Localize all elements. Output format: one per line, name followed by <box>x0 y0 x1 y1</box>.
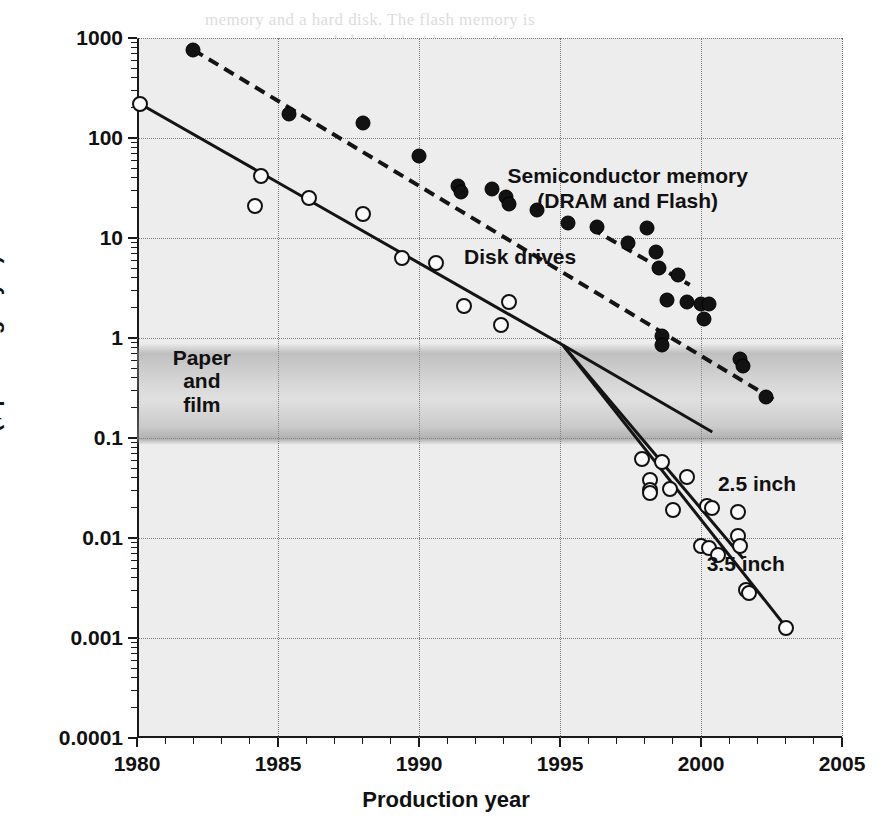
x-tick-2002 <box>757 738 758 744</box>
trendline-combined-disk-projection <box>563 345 712 432</box>
trendlines <box>137 38 842 738</box>
x-tick-label-1990: 1990 <box>396 752 443 776</box>
price-per-megabyte-chart: memory and a hard disk. The flash memory… <box>0 0 892 840</box>
gridline-y-0.001 <box>137 638 842 639</box>
x-tick-1994 <box>531 738 532 744</box>
data-point <box>758 389 773 404</box>
y-tick-label-0.001: 0.001 <box>70 626 123 650</box>
y-tick-40 <box>131 177 137 178</box>
x-tick-1980 <box>136 738 138 747</box>
data-point <box>642 485 658 501</box>
y-tick-0.0008 <box>131 647 137 648</box>
x-axis-title: Production year <box>362 787 529 813</box>
x-tick-1981 <box>165 738 166 744</box>
y-tick-label-100: 100 <box>88 126 123 150</box>
x-tick-1999 <box>672 738 673 744</box>
data-point <box>282 106 297 121</box>
x-tick-1985 <box>277 738 279 747</box>
x-tick-1992 <box>475 738 476 744</box>
annotation-line: 3.5 inch <box>707 552 785 576</box>
annotation-paper-and-film: Paperandfilm <box>173 346 231 417</box>
data-point <box>589 219 604 234</box>
y-tick-0.0005 <box>131 668 137 669</box>
data-point <box>736 359 751 374</box>
annotation-line: Disk drives <box>464 245 576 269</box>
data-point <box>186 42 201 57</box>
x-tick-2001 <box>729 738 730 744</box>
annotation-line: film <box>173 393 231 417</box>
y-tick-20 <box>131 207 137 208</box>
data-point <box>301 190 317 206</box>
y-tick-80 <box>131 147 137 148</box>
y-tick-800 <box>131 47 137 48</box>
trendline-2-5-inch <box>563 345 743 559</box>
y-tick-50 <box>131 168 137 169</box>
data-point <box>456 298 472 314</box>
data-point <box>454 184 469 199</box>
data-point <box>634 451 650 467</box>
y-tick-60 <box>131 160 137 161</box>
y-tick-label-1000: 1000 <box>76 26 123 50</box>
y-tick-0.001 <box>128 637 137 639</box>
y-tick-0.04 <box>131 477 137 478</box>
x-tick-1998 <box>644 738 645 744</box>
x-tick-1986 <box>306 738 307 744</box>
y-tick-7 <box>131 253 137 254</box>
data-point <box>253 168 269 184</box>
data-point <box>662 481 678 497</box>
y-tick-300 <box>131 90 137 91</box>
annotation-semiconductor: Semiconductor memory(DRAM and Flash) <box>507 164 747 213</box>
y-tick-700 <box>131 53 137 54</box>
y-tick-0.4 <box>131 377 137 378</box>
y-tick-90 <box>131 142 137 143</box>
gridline-y-10 <box>137 238 842 239</box>
data-point <box>132 96 148 112</box>
data-point <box>485 181 500 196</box>
data-point <box>671 267 686 282</box>
y-tick-1 <box>128 337 137 339</box>
y-tick-label-0.01: 0.01 <box>82 526 123 550</box>
data-point <box>648 245 663 260</box>
gridline-y-0.1 <box>137 438 842 439</box>
x-tick-1982 <box>193 738 194 744</box>
data-point <box>493 317 509 333</box>
y-tick-0.05 <box>131 468 137 469</box>
data-point <box>679 469 695 485</box>
data-point <box>665 502 681 518</box>
x-tick-2005 <box>841 738 843 747</box>
data-point <box>412 149 427 164</box>
y-tick-6 <box>131 260 137 261</box>
x-tick-label-1985: 1985 <box>255 752 302 776</box>
data-point <box>679 294 694 309</box>
annotation-line: (DRAM and Flash) <box>507 189 747 213</box>
y-tick-0.008 <box>131 547 137 548</box>
annotation-disk-drives: Disk drives <box>464 245 576 269</box>
annotation-line: 2.5 inch <box>718 472 796 496</box>
x-tick-1996 <box>588 738 589 744</box>
annotation-line: Paper <box>173 346 231 370</box>
y-tick-400 <box>131 77 137 78</box>
y-tick-100 <box>128 137 137 139</box>
gridline-x-2005 <box>842 38 843 738</box>
x-tick-2003 <box>785 738 786 744</box>
y-tick-500 <box>131 68 137 69</box>
y-tick-0.009000000000000001 <box>131 542 137 543</box>
y-tick-0.0001 <box>128 737 137 739</box>
x-tick-2000 <box>700 738 702 747</box>
y-tick-0.0004 <box>131 677 137 678</box>
y-tick-0.8 <box>131 347 137 348</box>
y-tick-0.07 <box>131 453 137 454</box>
x-tick-1991 <box>447 738 448 744</box>
y-axis-line <box>137 38 139 738</box>
data-point <box>620 235 635 250</box>
y-tick-0.003 <box>131 590 137 591</box>
gridline-x-1985 <box>278 38 279 738</box>
x-tick-label-1995: 1995 <box>537 752 584 776</box>
y-axis-title: Price ($ per megabyte) <box>0 256 5 492</box>
x-tick-1984 <box>249 738 250 744</box>
y-tick-0.0007 <box>131 653 137 654</box>
plot-area: Semiconductor memory(DRAM and Flash)Disk… <box>137 38 842 738</box>
x-tick-1990 <box>418 738 420 747</box>
x-tick-1997 <box>616 738 617 744</box>
data-point <box>741 585 757 601</box>
